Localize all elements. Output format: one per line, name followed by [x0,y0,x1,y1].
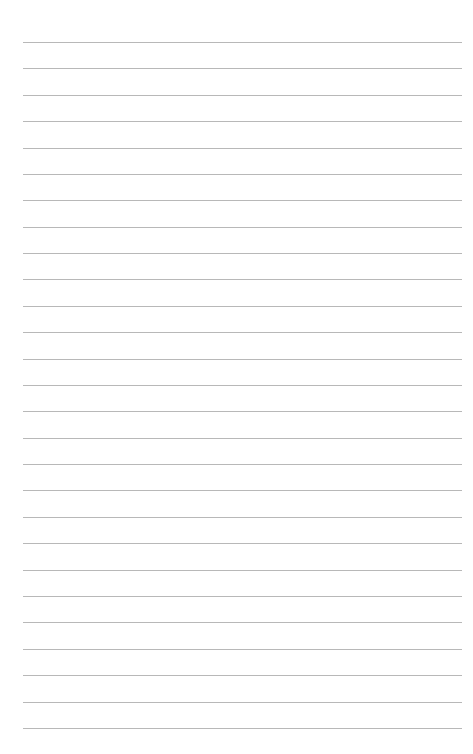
ruled-line [23,517,462,518]
ruled-line [23,279,462,280]
ruled-line [23,174,462,175]
ruled-line [23,543,462,544]
ruled-line [23,490,462,491]
ruled-line [23,306,462,307]
ruled-line [23,622,462,623]
ruled-line [23,438,462,439]
ruled-line [23,227,462,228]
ruled-line [23,675,462,676]
ruled-line [23,596,462,597]
ruled-line [23,385,462,386]
ruled-line [23,253,462,254]
ruled-line [23,68,462,69]
ruled-line [23,200,462,201]
ruled-line [23,148,462,149]
ruled-line [23,121,462,122]
ruled-line [23,359,462,360]
ruled-line [23,411,462,412]
ruled-line [23,464,462,465]
ruled-line [23,42,462,43]
ruled-line [23,332,462,333]
lined-paper-page [0,0,473,754]
ruled-line [23,95,462,96]
ruled-line [23,702,462,703]
ruled-line [23,728,462,729]
ruled-line [23,570,462,571]
ruled-line [23,649,462,650]
